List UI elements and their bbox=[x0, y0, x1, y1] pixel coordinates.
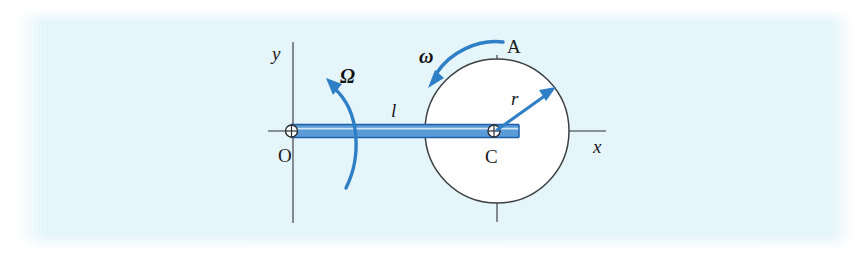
disk-angular-velocity-label: ω bbox=[419, 45, 433, 67]
y-axis-label: y bbox=[270, 43, 281, 64]
rod-length-label: l bbox=[391, 100, 396, 121]
kinematics-diagram: y x O C A l r Ω ω bbox=[0, 0, 859, 262]
radius-length-label: r bbox=[511, 88, 519, 109]
rod-body bbox=[291, 125, 519, 138]
rod-angular-velocity-label: Ω bbox=[340, 65, 355, 87]
point-a-label: A bbox=[507, 36, 521, 57]
figure-root: y x O C A l r Ω ω bbox=[0, 0, 859, 262]
point-o-label: O bbox=[278, 145, 292, 166]
point-c-label: C bbox=[485, 146, 498, 167]
x-axis-label: x bbox=[592, 136, 602, 157]
